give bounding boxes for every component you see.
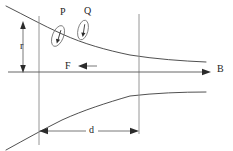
radius-arrowhead-up [20,21,26,29]
label-distance: d [89,125,94,135]
magnetic-field-diagram: P Q r F B d [0,0,233,151]
distance-arrowhead-left [39,128,48,135]
lower-field-line [6,92,206,150]
particle-p-orbit [49,24,67,49]
particle-q-orbit [76,19,91,41]
upper-field-line [6,6,206,62]
particle-p-group [49,24,67,49]
particle-q-spin-arrowhead [80,32,85,37]
particle-q-group [76,19,91,41]
force-arrowhead [78,63,87,70]
label-particle-p: P [60,7,66,17]
distance-arrowhead-right [130,128,139,135]
label-force: F [65,61,71,71]
b-axis-arrowhead [202,69,211,75]
diagram-canvas [0,0,233,151]
particle-q-spin-arrow [82,24,85,34]
label-field-axis: B [217,64,224,74]
particle-p-spin-arrowhead [54,38,60,44]
label-particle-q: Q [84,6,91,16]
label-radius: r [20,41,23,51]
